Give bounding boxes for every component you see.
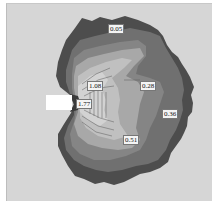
contour-label-1-08: 1.08 bbox=[87, 81, 103, 91]
contour-label-0-36: 0.36 bbox=[162, 109, 178, 119]
contour-label-1-77: 1.77 bbox=[76, 99, 92, 109]
contour-label-0-28: 0.28 bbox=[140, 81, 156, 91]
contour-plot bbox=[0, 0, 214, 204]
contour-label-0-05: 0.05 bbox=[108, 24, 124, 34]
contour-label-0-51: 0.51 bbox=[123, 135, 139, 145]
obstacle-rectangle bbox=[46, 95, 72, 110]
